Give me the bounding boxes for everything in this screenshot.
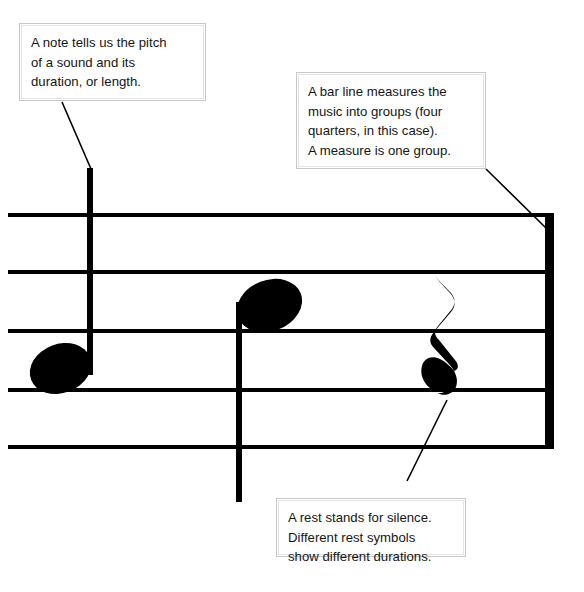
staff-line-5 [8, 445, 553, 449]
bar-line [545, 213, 554, 449]
callout-note: A note tells us the pitch of a sound and… [19, 23, 206, 101]
music-notation-diagram: A note tells us the pitch of a sound and… [0, 0, 584, 592]
leader-line-note [62, 102, 91, 169]
staff-line-4 [8, 388, 553, 392]
callout-note-line-2: of a sound and its [31, 53, 195, 73]
leader-line-rest [407, 400, 447, 481]
leader-line-barline [486, 169, 549, 231]
quarter-note-2-stem [236, 302, 242, 502]
quarter-rest-icon [418, 272, 464, 404]
callout-rest: A rest stands for silence. Different res… [276, 498, 466, 557]
quarter-note-1-stem [87, 168, 93, 375]
callout-rest-line-2: Different rest symbols [288, 528, 455, 548]
callout-note-line-1: A note tells us the pitch [31, 33, 195, 53]
callout-barline-line-4: A measure is one group. [308, 141, 475, 161]
callout-rest-line-3: show different durations. [288, 547, 455, 567]
callout-rest-line-1: A rest stands for silence. [288, 508, 455, 528]
callout-barline-line-2: music into groups (four [308, 102, 475, 122]
callout-barline-line-1: A bar line measures the [308, 82, 475, 102]
callout-note-line-3: duration, or length. [31, 72, 195, 92]
callout-barline-line-3: quarters, in this case). [308, 121, 475, 141]
callout-barline: A bar line measures the music into group… [296, 72, 486, 169]
